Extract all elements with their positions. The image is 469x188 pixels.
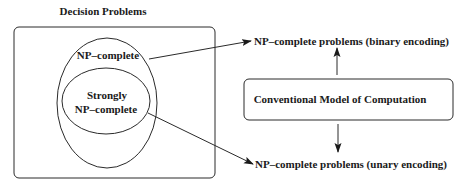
strongly-np-complete-ellipse	[62, 68, 150, 134]
strongly-np-complete-label: NP–complete	[75, 103, 137, 115]
unary-encoding-label: NP–complete problems (unary encoding)	[255, 158, 447, 171]
binary-encoding-label: NP–complete problems (binary encoding)	[254, 35, 449, 48]
np-complete-label: NP–complete	[77, 49, 139, 61]
arrow-np-complete-to-binary	[149, 41, 251, 59]
diagram-canvas: Decision Problems NP–complete Strongly N…	[0, 0, 469, 188]
conventional-model-label: Conventional Model of Computation	[254, 93, 427, 105]
diagram-svg: Decision Problems NP–complete Strongly N…	[0, 0, 469, 188]
strongly-label: Strongly	[87, 89, 128, 101]
arrow-strongly-to-unary	[148, 113, 253, 164]
decision-problems-title: Decision Problems	[60, 5, 148, 17]
